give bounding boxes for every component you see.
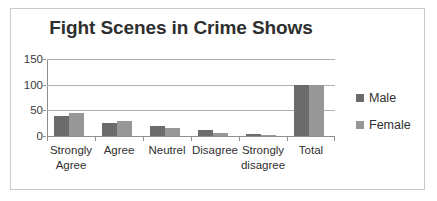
x-tick-label: Disagree xyxy=(191,143,239,158)
bar-male xyxy=(150,126,165,136)
bar-female xyxy=(69,113,84,136)
plot-area xyxy=(47,59,335,137)
bar-female xyxy=(117,121,132,136)
bar-female xyxy=(213,133,228,136)
bars-layer xyxy=(47,59,335,137)
y-tick-label: 0 xyxy=(13,130,43,142)
legend-label: Female xyxy=(369,118,411,132)
y-tick-label: 50 xyxy=(13,104,43,116)
bar-female xyxy=(165,128,180,136)
bar-group xyxy=(191,59,239,136)
x-axis-labels: Strongly AgreeAgreeNeutrelDisagreeStrong… xyxy=(47,143,335,183)
bar-group xyxy=(95,59,143,136)
x-tick-label: Neutrel xyxy=(143,143,191,158)
x-tick-mark xyxy=(47,137,48,141)
y-axis: 050100150 xyxy=(11,59,43,137)
x-tick-label: Strongly disagree xyxy=(239,143,287,173)
chart-legend: MaleFemale xyxy=(356,91,426,145)
y-tick-label: 150 xyxy=(13,53,43,65)
x-tick-mark xyxy=(334,137,335,141)
legend-entry-male: Male xyxy=(356,91,426,105)
legend-swatch-icon xyxy=(356,94,364,102)
bar-female xyxy=(261,135,276,136)
legend-label: Male xyxy=(369,91,396,105)
x-tick-label: Total xyxy=(287,143,335,158)
legend-entry-female: Female xyxy=(356,118,426,132)
x-tick-mark xyxy=(287,137,288,141)
bar-male xyxy=(102,123,117,136)
x-tick-mark xyxy=(95,137,96,141)
y-tick-mark xyxy=(43,136,46,137)
x-tick-mark xyxy=(239,137,240,141)
bar-group xyxy=(239,59,287,136)
bar-female xyxy=(309,85,324,136)
bar-group xyxy=(143,59,191,136)
legend-swatch-icon xyxy=(356,121,364,129)
bar-group xyxy=(287,59,335,136)
x-tick-mark xyxy=(191,137,192,141)
x-tick-mark xyxy=(143,137,144,141)
bar-male xyxy=(198,130,213,136)
x-tick-label: Strongly Agree xyxy=(47,143,95,173)
chart-title: Fight Scenes in Crime Shows xyxy=(11,17,351,39)
bar-male xyxy=(54,116,69,136)
bar-male xyxy=(246,134,261,136)
chart-container: Fight Scenes in Crime Shows 050100150 St… xyxy=(10,8,425,190)
y-tick-label: 100 xyxy=(13,79,43,91)
y-tick-mark xyxy=(43,85,46,86)
y-tick-mark xyxy=(43,59,46,60)
bar-group xyxy=(47,59,95,136)
x-tick-label: Agree xyxy=(95,143,143,158)
x-axis-ticks xyxy=(47,137,335,141)
y-tick-mark xyxy=(43,110,46,111)
bar-male xyxy=(294,85,309,136)
